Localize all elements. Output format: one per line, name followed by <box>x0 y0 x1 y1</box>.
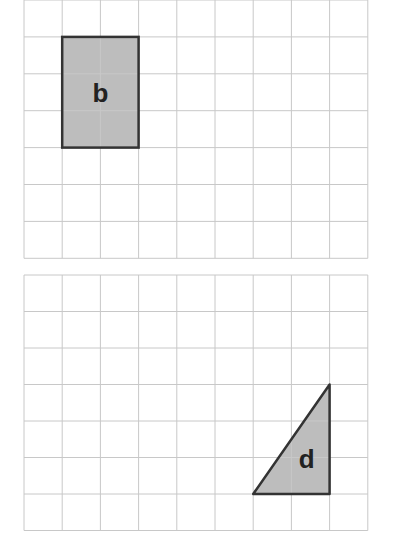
shape-label-d: d <box>299 444 315 474</box>
grid-bottom <box>24 275 368 531</box>
diagram-canvas: b d <box>0 0 405 552</box>
grid-top <box>24 0 368 258</box>
shape-label-b: b <box>92 78 108 108</box>
